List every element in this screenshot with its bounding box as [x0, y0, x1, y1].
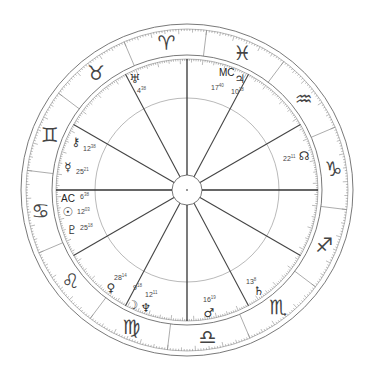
saturn-icon: ♄	[254, 284, 265, 298]
outer-tick	[42, 260, 44, 261]
inner-tick	[287, 271, 289, 272]
inner-tick	[106, 87, 108, 90]
inner-tick	[293, 115, 295, 116]
outer-tick	[50, 105, 53, 107]
outer-tick	[151, 33, 152, 38]
inner-tick	[284, 104, 286, 105]
outer-tick	[109, 49, 110, 51]
pisces-sign-icon: ♓	[233, 41, 251, 65]
scorpio-sign-icon: ♏	[269, 295, 287, 319]
outer-tick	[119, 334, 120, 336]
inner-tick	[120, 301, 121, 303]
mars-minute: 19	[211, 295, 217, 300]
chiron-icon: ⚷	[72, 135, 81, 149]
astrology-chart-wheel: ♈♉♊♋♌♍♎♏♐♑♒♓ ♅438♃1018⚷1238☿2521☊2211☉12…	[0, 0, 371, 380]
inner-tick	[91, 101, 92, 102]
outer-tick	[278, 58, 279, 60]
outer-tick	[55, 98, 57, 99]
chiron-minute: 38	[91, 144, 97, 149]
outer-tick	[269, 326, 270, 328]
outer-tick	[71, 78, 72, 79]
venus-icon: ♀	[107, 281, 116, 295]
inner-tick	[270, 90, 271, 92]
inner-tick	[118, 298, 120, 301]
mars-position: ♂1619	[203, 295, 216, 320]
venus-degree: 2814	[114, 273, 127, 281]
inner-tick	[82, 111, 86, 114]
outer-tick	[102, 324, 104, 327]
inner-tick	[223, 64, 224, 66]
outer-tick	[337, 140, 340, 141]
inner-tick	[294, 117, 296, 118]
inner-tick	[94, 281, 95, 282]
inner-tick	[252, 77, 253, 79]
inner-tick	[105, 88, 106, 90]
inner-tick	[288, 266, 292, 269]
inner-tick	[300, 253, 302, 254]
outer-tick	[311, 290, 313, 291]
inner-tick	[310, 152, 312, 153]
inner-tick	[265, 290, 267, 293]
outer-tick	[95, 58, 96, 60]
outer-tick	[31, 148, 33, 149]
moon-minute: 18	[137, 283, 143, 288]
inner-tick	[153, 315, 154, 317]
inner-tick	[63, 232, 65, 233]
outer-tick	[36, 135, 38, 136]
inner-tick	[303, 133, 305, 134]
outer-tick	[295, 72, 296, 73]
inner-tick	[72, 253, 74, 254]
outer-tick	[292, 70, 294, 73]
outer-tick	[252, 335, 253, 337]
mc-degree: 1740	[211, 83, 224, 91]
inner-tick	[291, 266, 293, 267]
outer-tick	[293, 304, 296, 308]
outer-tick	[86, 314, 87, 316]
mars-icon: ♂	[204, 306, 215, 320]
inner-tick	[142, 67, 143, 69]
inner-tick	[273, 286, 274, 287]
outer-tick	[37, 132, 39, 133]
sign-boundary-line	[167, 324, 170, 350]
inner-tick	[309, 147, 311, 148]
outer-tick	[57, 95, 59, 96]
inner-tick	[312, 217, 315, 218]
outer-tick	[42, 119, 44, 120]
outer-tick	[49, 272, 51, 273]
planet-positions: ♅438♃1018⚷1238☿2521☊2211☉1203♇2518♀2814☽…	[63, 72, 310, 320]
inner-tick	[237, 69, 238, 71]
outer-tick	[45, 114, 47, 115]
inner-tick	[116, 298, 117, 300]
neptune-degree: 1211	[145, 290, 158, 298]
outer-tick	[104, 326, 105, 328]
inner-tick	[306, 240, 308, 241]
outer-tick	[62, 89, 64, 90]
inner-tick	[223, 314, 224, 316]
outer-tick	[132, 39, 133, 41]
inner-tick	[103, 90, 104, 92]
inner-tick	[69, 133, 71, 134]
inner-tick	[310, 161, 315, 162]
sign-boundary-line	[27, 170, 53, 173]
outer-tick	[129, 40, 130, 42]
inner-tick	[298, 123, 300, 124]
inner-tick	[116, 80, 119, 84]
house-cusp-line	[200, 198, 300, 256]
inner-tick	[287, 109, 290, 111]
inner-tick	[308, 234, 310, 235]
sign-boundary-line	[58, 93, 79, 109]
pluto-position: ♇2518	[67, 223, 94, 237]
outer-tick	[81, 310, 82, 312]
outer-tick	[276, 322, 277, 324]
outer-tick	[111, 48, 113, 51]
inner-tick	[99, 93, 100, 94]
inner-tick	[255, 299, 256, 301]
outer-tick	[334, 130, 336, 131]
outer-tick	[259, 332, 260, 334]
outer-tick	[326, 114, 329, 116]
inner-tick	[246, 305, 247, 307]
inner-tick	[66, 141, 69, 142]
outer-tick	[64, 87, 66, 88]
sun-minute: 03	[85, 207, 91, 212]
outer-tick	[326, 112, 328, 113]
